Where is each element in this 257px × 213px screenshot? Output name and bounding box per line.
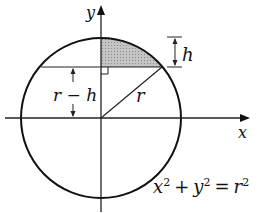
rh-arrow-down-icon: [71, 111, 76, 117]
x-axis-arrow-icon: [240, 114, 250, 122]
right-angle-marker: [101, 67, 108, 74]
rh-arrow-up-icon: [71, 68, 76, 74]
h-arrow-up-icon: [173, 38, 178, 44]
radius-line: [101, 67, 162, 118]
r-minus-h-label: r − h: [53, 85, 97, 105]
x-axis-label: x: [238, 123, 247, 142]
h-label: h: [182, 44, 194, 65]
r-label: r: [136, 85, 146, 106]
circle-segment-diagram: y x h r − h r x2+y2=r2: [0, 0, 257, 213]
h-arrow-down-icon: [173, 60, 178, 66]
y-axis-label: y: [85, 3, 96, 22]
y-axis-arrow-icon: [97, 5, 105, 15]
svg-text:x2+y2=r2: x2+y2=r2: [153, 176, 249, 197]
circle-equation: x2+y2=r2: [153, 176, 249, 197]
shaded-segment: [101, 38, 162, 67]
